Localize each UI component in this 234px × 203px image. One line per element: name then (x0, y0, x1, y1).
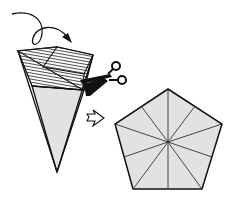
curved-arrow-icon (12, 13, 72, 44)
hollow-arrow-icon (87, 110, 104, 126)
result-pentagon (115, 89, 222, 189)
folded-cone (18, 47, 93, 172)
fold-and-cut-diagram (0, 0, 234, 203)
